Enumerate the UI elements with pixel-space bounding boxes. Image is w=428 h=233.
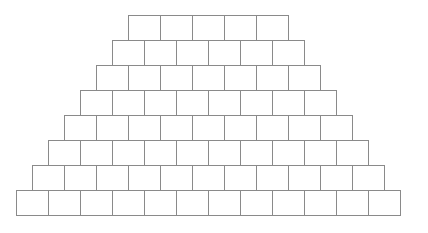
- brick: [33, 166, 65, 191]
- brick: [225, 166, 257, 191]
- brick: [129, 116, 161, 141]
- brick: [209, 191, 241, 216]
- brick: [241, 191, 273, 216]
- brick-row-7: [33, 166, 385, 191]
- brick: [177, 191, 209, 216]
- brick: [305, 191, 337, 216]
- brick: [273, 41, 305, 66]
- brick: [97, 166, 129, 191]
- brick: [337, 141, 369, 166]
- brick: [177, 141, 209, 166]
- brick: [161, 66, 193, 91]
- brick: [289, 166, 321, 191]
- brick: [273, 191, 305, 216]
- brick: [257, 66, 289, 91]
- brick: [177, 41, 209, 66]
- brick: [113, 41, 145, 66]
- brick: [289, 116, 321, 141]
- brick: [49, 141, 81, 166]
- brick: [145, 141, 177, 166]
- brick: [65, 166, 97, 191]
- brick: [209, 141, 241, 166]
- brick: [273, 91, 305, 116]
- brick: [257, 166, 289, 191]
- brick-row-5: [65, 116, 353, 141]
- brick: [145, 91, 177, 116]
- brick: [353, 166, 385, 191]
- brick: [81, 191, 113, 216]
- brick: [337, 191, 369, 216]
- brick: [241, 41, 273, 66]
- brick: [193, 166, 225, 191]
- brick-pyramid-canvas: [0, 0, 428, 233]
- brick-row-8: [17, 191, 401, 216]
- brick-row-6: [49, 141, 369, 166]
- brick: [241, 91, 273, 116]
- brick: [225, 116, 257, 141]
- brick: [113, 141, 145, 166]
- brick: [81, 141, 113, 166]
- brick: [209, 41, 241, 66]
- brick: [289, 66, 321, 91]
- brick: [65, 116, 97, 141]
- brick: [225, 66, 257, 91]
- brick: [113, 191, 145, 216]
- brick: [369, 191, 401, 216]
- brick: [161, 16, 193, 41]
- brick: [145, 41, 177, 66]
- brick: [97, 116, 129, 141]
- brick: [161, 166, 193, 191]
- brick: [209, 91, 241, 116]
- brick: [241, 141, 273, 166]
- brick-row-4: [81, 91, 337, 116]
- brick: [257, 16, 289, 41]
- brick: [17, 191, 49, 216]
- brick: [305, 141, 337, 166]
- brick: [305, 91, 337, 116]
- brick: [273, 141, 305, 166]
- brick-row-1: [129, 16, 289, 41]
- brick: [129, 166, 161, 191]
- brick: [49, 191, 81, 216]
- brick: [113, 91, 145, 116]
- brick: [321, 116, 353, 141]
- brick-group: [17, 16, 401, 216]
- brick: [193, 66, 225, 91]
- brick-row-2: [113, 41, 305, 66]
- brick: [129, 66, 161, 91]
- brick-pyramid-figure: [0, 0, 428, 233]
- brick: [193, 116, 225, 141]
- brick: [81, 91, 113, 116]
- brick: [145, 191, 177, 216]
- brick: [193, 16, 225, 41]
- brick: [177, 91, 209, 116]
- brick: [257, 116, 289, 141]
- brick: [161, 116, 193, 141]
- brick: [225, 16, 257, 41]
- brick: [97, 66, 129, 91]
- brick: [129, 16, 161, 41]
- brick: [321, 166, 353, 191]
- brick-row-3: [97, 66, 321, 91]
